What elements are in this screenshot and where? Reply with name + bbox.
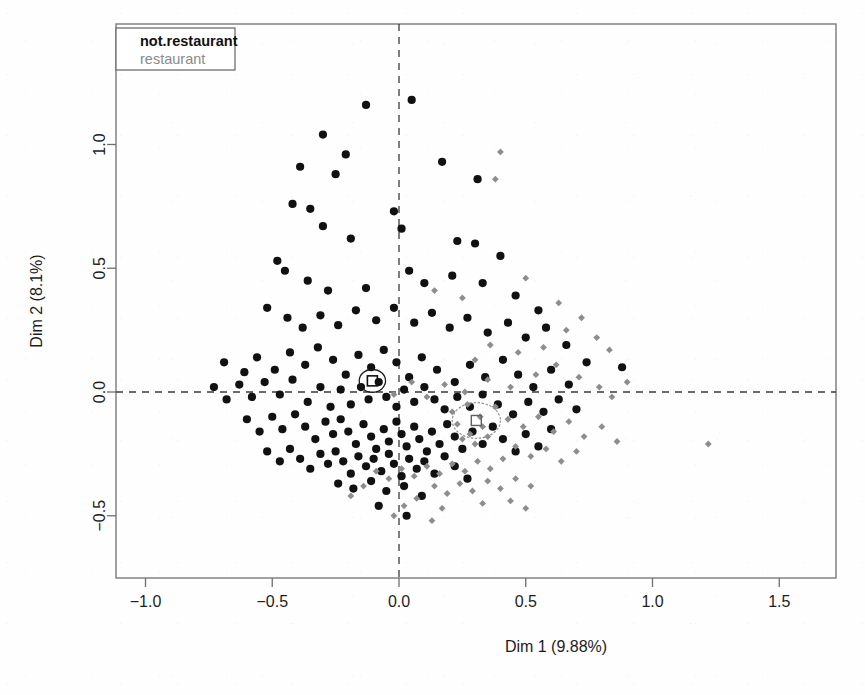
data-point bbox=[268, 413, 276, 421]
scatter-plot: −1.0−0.50.00.51.01.5−0.50.00.51.0Dim 1 (… bbox=[0, 0, 865, 695]
data-point bbox=[316, 311, 324, 319]
data-point bbox=[500, 455, 507, 462]
data-point bbox=[512, 475, 519, 482]
data-point bbox=[243, 415, 251, 423]
data-point bbox=[479, 500, 486, 507]
data-point bbox=[565, 418, 572, 425]
data-point bbox=[507, 498, 514, 505]
data-point bbox=[415, 435, 423, 443]
data-point bbox=[347, 470, 355, 478]
data-point bbox=[469, 488, 476, 495]
data-point bbox=[380, 425, 388, 433]
data-point bbox=[484, 329, 492, 337]
data-point bbox=[444, 490, 451, 497]
data-point bbox=[354, 351, 362, 359]
data-point bbox=[397, 472, 405, 480]
y-tick-label-2: 0.5 bbox=[91, 257, 108, 279]
data-point bbox=[400, 482, 408, 490]
data-point bbox=[304, 398, 312, 406]
data-point bbox=[499, 356, 507, 364]
data-point bbox=[614, 438, 621, 445]
data-point bbox=[454, 421, 461, 428]
data-point bbox=[474, 458, 481, 465]
data-point bbox=[423, 394, 430, 401]
data-point bbox=[329, 430, 337, 438]
data-point bbox=[441, 405, 449, 413]
x-tick-label-0: −1.0 bbox=[130, 593, 162, 610]
data-point bbox=[547, 366, 555, 374]
data-point bbox=[362, 462, 370, 470]
data-point bbox=[527, 453, 534, 460]
x-tick-label-3: 0.5 bbox=[515, 593, 537, 610]
data-point bbox=[390, 207, 398, 215]
data-point bbox=[301, 361, 309, 369]
data-point bbox=[471, 239, 479, 247]
data-point bbox=[342, 150, 350, 158]
data-point bbox=[576, 374, 583, 381]
legend-entry-not-restaurant[interactable]: not.restaurant bbox=[140, 33, 238, 49]
data-point bbox=[451, 378, 459, 386]
data-point bbox=[441, 381, 448, 388]
data-point bbox=[382, 487, 390, 495]
data-point bbox=[352, 440, 360, 448]
data-point bbox=[347, 234, 355, 242]
data-point bbox=[459, 295, 466, 302]
data-point bbox=[306, 205, 314, 213]
data-point bbox=[433, 366, 441, 374]
data-point bbox=[411, 473, 418, 480]
data-point bbox=[311, 435, 319, 443]
data-point bbox=[255, 428, 263, 436]
data-point bbox=[520, 423, 527, 430]
data-point bbox=[367, 432, 375, 440]
data-point bbox=[342, 371, 350, 379]
data-point bbox=[210, 383, 218, 391]
data-point bbox=[405, 455, 413, 463]
data-point bbox=[441, 452, 449, 460]
x-tick-label-2: 0.0 bbox=[388, 593, 410, 610]
data-point bbox=[420, 279, 428, 287]
data-point bbox=[522, 505, 529, 512]
data-point bbox=[362, 284, 370, 292]
data-point bbox=[235, 380, 243, 388]
data-point bbox=[435, 440, 443, 448]
data-point bbox=[446, 324, 454, 332]
data-point bbox=[522, 430, 530, 438]
data-point bbox=[319, 222, 327, 230]
data-point bbox=[484, 478, 491, 485]
data-point bbox=[705, 441, 712, 448]
data-point bbox=[344, 428, 352, 436]
data-point bbox=[364, 395, 372, 403]
data-point bbox=[261, 378, 269, 386]
data-point bbox=[248, 393, 256, 401]
data-point bbox=[418, 353, 426, 361]
data-point bbox=[473, 175, 481, 183]
data-point bbox=[380, 346, 388, 354]
data-point bbox=[509, 410, 517, 418]
data-point bbox=[499, 435, 507, 443]
data-point bbox=[408, 96, 416, 104]
data-point bbox=[382, 393, 390, 401]
data-point bbox=[512, 291, 520, 299]
data-point bbox=[458, 445, 466, 453]
data-point bbox=[276, 457, 284, 465]
data-point bbox=[392, 418, 400, 426]
data-point bbox=[598, 423, 605, 430]
data-point bbox=[301, 423, 309, 431]
data-point bbox=[429, 517, 436, 524]
data-point bbox=[565, 380, 573, 388]
data-point bbox=[581, 433, 588, 440]
data-point bbox=[397, 225, 405, 233]
y-tick-label-1: 0.0 bbox=[91, 381, 108, 403]
data-point bbox=[463, 314, 471, 322]
data-point bbox=[487, 465, 494, 472]
data-point bbox=[332, 447, 340, 455]
data-point bbox=[349, 484, 357, 492]
data-point bbox=[360, 483, 367, 490]
data-point bbox=[324, 460, 332, 468]
legend-entry-restaurant[interactable]: restaurant bbox=[140, 51, 205, 67]
data-point bbox=[263, 304, 271, 312]
data-point bbox=[413, 465, 421, 473]
data-point bbox=[479, 390, 487, 398]
data-point bbox=[385, 437, 393, 445]
data-point bbox=[390, 304, 398, 312]
